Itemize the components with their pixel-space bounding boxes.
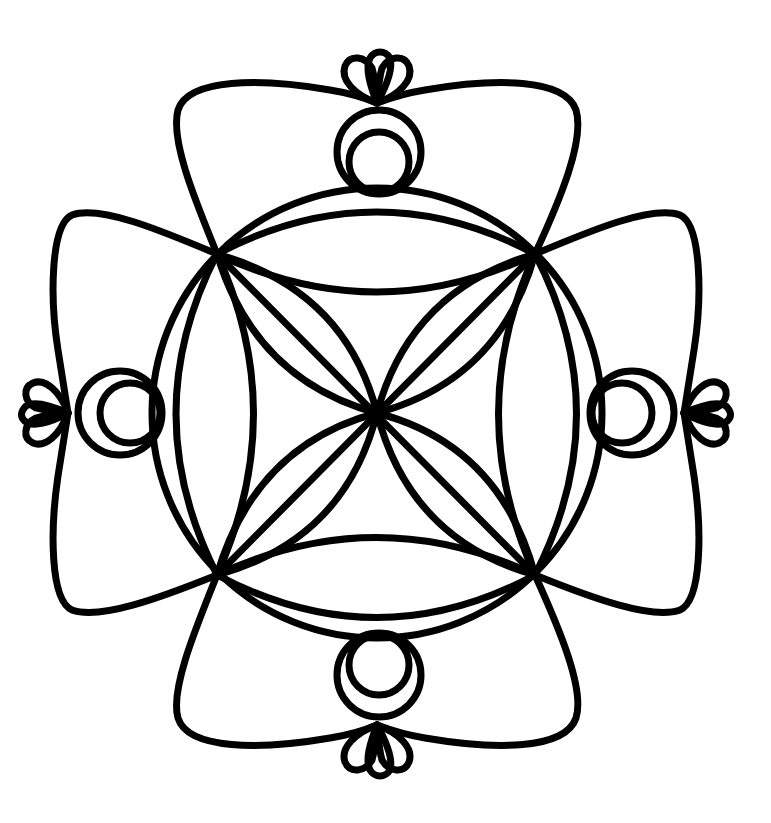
top-ring-inner	[349, 132, 409, 192]
mandala-canvas	[0, 0, 771, 823]
mandala-drawing	[0, 0, 771, 823]
bottom-ring-inner	[349, 635, 409, 695]
bottom-ornament	[337, 633, 421, 717]
top-ornament	[337, 110, 421, 194]
